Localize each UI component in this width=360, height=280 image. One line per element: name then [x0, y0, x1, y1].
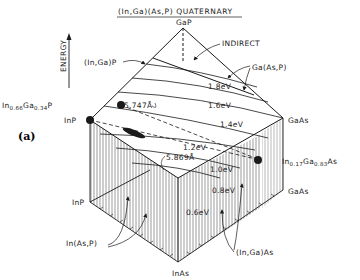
svg-text:In0.17Ga0.83As: In0.17Ga0.83As — [282, 157, 337, 167]
ingaas-composition-label: In0.17Ga0.83As — [282, 157, 337, 167]
lattice-5747-label: 5.747Å — [124, 101, 153, 110]
gaasp-region-label: Ga(As,P) — [252, 63, 287, 72]
energy-axis: ENERGY — [59, 33, 72, 88]
lattice-matched-region — [122, 126, 147, 141]
inp-point — [86, 116, 94, 124]
ingaas-region-label: (In,Ga)As — [236, 248, 273, 257]
lattice-5747-bracket — [152, 103, 156, 107]
base-gaas-label: GaAs — [288, 187, 309, 196]
indirect-label: INDIRECT — [222, 39, 260, 48]
vertex-inas-label: InAs — [172, 269, 189, 278]
vertex-gap-label: GaP — [176, 18, 192, 27]
contour-label-1.6: 1.6eV — [208, 101, 232, 110]
contour-label-1.8: 1.8eV — [208, 82, 232, 91]
lattice-5869-label: 5.869Å — [166, 153, 195, 162]
contour-label-1.2: 1.2eV — [183, 143, 207, 152]
energy-axis-label: ENERGY — [59, 40, 68, 72]
gaasp-arrow-icon-2 — [244, 68, 250, 90]
contour-label-0.8: 0.8eV — [212, 186, 236, 195]
contour-label-1.0: 1.0eV — [210, 165, 234, 174]
vertex-inp-label: InP — [64, 116, 77, 125]
ingap-arrow-icon — [123, 60, 145, 64]
inasp-region-label: In(As,P) — [66, 239, 97, 248]
arrow-up-icon — [67, 33, 72, 40]
contour-label-1.4: 1.4eV — [220, 120, 244, 129]
ingap-region-label: (In,Ga)P — [84, 58, 117, 67]
diagram-title: (In,Ga)(As,P) QUATERNARY — [118, 7, 233, 16]
panel-label: (a) — [18, 130, 36, 143]
quaternary-energy-diagram: (In,Ga)(As,P) QUATERNARY ENERGY — [0, 0, 360, 280]
svg-text:In0.66Ga0.34P: In0.66Ga0.34P — [2, 101, 53, 111]
contour-label-0.6: 0.6eV — [186, 208, 210, 217]
ingaas-point — [254, 156, 262, 164]
ingap-composition-label: In0.66Ga0.34P — [2, 101, 53, 111]
base-inp-label: InP — [72, 198, 85, 207]
vertex-gaas-label: GaAs — [288, 116, 309, 125]
